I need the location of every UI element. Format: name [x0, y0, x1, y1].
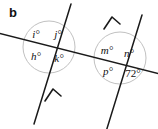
part-label: b: [9, 6, 17, 19]
angle-label-m: m°: [101, 45, 113, 56]
parallel-arrow-left-icon: [45, 89, 61, 101]
angle-circle-left: [23, 21, 75, 73]
angle-label-h: h°: [31, 51, 41, 62]
angle-label-i: i°: [32, 29, 39, 40]
figure-canvas: [0, 0, 158, 129]
angle-label-n: n°: [124, 48, 134, 59]
angle-label-72: 72°: [125, 68, 140, 79]
parallel-line-left: [34, 4, 71, 124]
geometry-figure: b i° j° h° k° m° n° p° 72°: [0, 0, 158, 129]
angle-label-k: k°: [54, 53, 63, 64]
angle-label-j: j°: [54, 29, 61, 40]
angle-label-p: p°: [103, 66, 113, 77]
parallel-arrow-right-icon: [104, 17, 120, 29]
